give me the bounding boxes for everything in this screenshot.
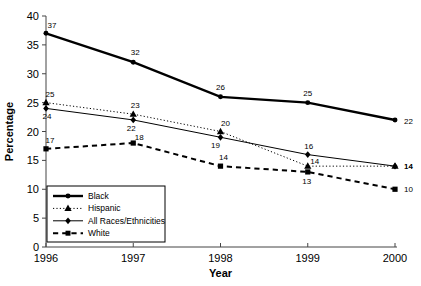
data-point-label: 14 (219, 153, 228, 162)
data-point-label: 18 (135, 133, 144, 142)
data-point-label: 25 (303, 89, 312, 98)
legend-label: Black (88, 191, 110, 201)
data-point-marker (392, 187, 397, 192)
y-tick-label: 40 (27, 10, 39, 22)
data-point-label: 23 (131, 101, 140, 110)
data-point-label: 10 (404, 185, 413, 194)
data-point-marker (218, 134, 224, 141)
x-tick-label: 1996 (34, 252, 58, 264)
legend-marker (66, 231, 71, 236)
y-tick-label: 35 (27, 39, 39, 51)
legend-label: Hispanic (88, 203, 121, 213)
data-point-marker (218, 94, 223, 99)
x-tick-label: 2000 (383, 252, 407, 264)
data-point-label: 14 (310, 157, 319, 166)
y-tick-label: 15 (27, 154, 39, 166)
legend-label: All Races/Ethnicities (88, 216, 165, 226)
y-axis-title: Percentage (3, 102, 15, 161)
data-point-label: 22 (404, 117, 413, 126)
data-point-marker (393, 117, 398, 122)
data-point-label: 26 (216, 83, 225, 92)
data-point-label: 17 (46, 136, 55, 145)
series-line (46, 33, 395, 120)
data-point-label: 22 (127, 124, 136, 133)
data-point-marker (43, 105, 49, 112)
data-point-label: 32 (131, 48, 140, 57)
y-tick-label: 10 (27, 183, 39, 195)
x-tick-label: 1997 (121, 252, 145, 264)
data-point-marker (42, 99, 49, 105)
y-tick-label: 20 (27, 126, 39, 138)
data-point-label: 16 (304, 142, 313, 151)
data-point-label: 13 (302, 177, 311, 186)
chart-container: 051015202530354019961997199819992000Year… (0, 0, 421, 286)
y-tick-label: 25 (27, 97, 39, 109)
y-tick-label: 30 (27, 68, 39, 80)
line-chart: 051015202530354019961997199819992000Year… (0, 0, 421, 286)
series-black (46, 33, 395, 120)
data-point-label: 19 (211, 141, 220, 150)
data-point-label: 37 (48, 21, 57, 30)
x-tick-label: 1999 (296, 252, 320, 264)
x-tick-label: 1998 (208, 252, 232, 264)
legend-marker (66, 194, 71, 199)
data-point-label: 24 (43, 112, 52, 121)
data-point-marker (43, 146, 48, 151)
data-point-label: 20 (221, 119, 230, 128)
data-point-marker (305, 100, 310, 105)
x-axis-title: Year (209, 267, 233, 279)
data-point-marker (131, 60, 136, 65)
data-point-marker (218, 164, 223, 169)
y-tick-label: 5 (33, 212, 39, 224)
data-point-marker (44, 31, 49, 36)
data-point-marker (130, 117, 136, 124)
data-point-marker (305, 169, 310, 174)
data-point-label: 14 (404, 162, 413, 171)
legend-label: White (88, 228, 110, 238)
data-point-label: 25 (46, 90, 55, 99)
